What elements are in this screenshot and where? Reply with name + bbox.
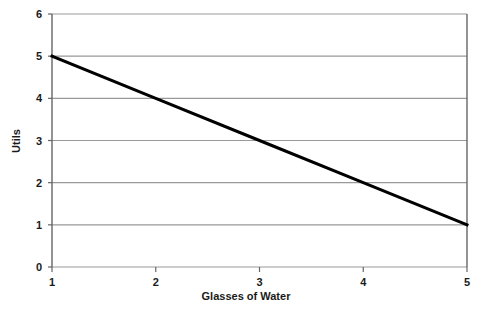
- y-tick-label-5: 5: [36, 50, 42, 62]
- x-axis-title: Glasses of Water: [202, 290, 292, 302]
- utility-line-chart: 0123456 12345 Glasses of Water Utils: [0, 0, 489, 319]
- x-tick-label-1: 1: [49, 276, 55, 288]
- y-axis-title: Utils: [10, 129, 22, 153]
- y-tick-label-1: 1: [36, 219, 42, 231]
- x-tick-label-4: 4: [360, 276, 367, 288]
- y-tick-label-6: 6: [36, 8, 42, 20]
- chart-canvas: 0123456 12345 Glasses of Water Utils: [0, 0, 489, 319]
- y-tick-label-4: 4: [36, 92, 43, 104]
- x-tick-label-2: 2: [153, 276, 159, 288]
- y-tick-label-2: 2: [36, 177, 42, 189]
- chart-background: [0, 0, 489, 319]
- x-tick-label-5: 5: [464, 276, 470, 288]
- y-tick-label-0: 0: [36, 261, 42, 273]
- y-tick-label-3: 3: [36, 135, 42, 147]
- x-tick-label-3: 3: [256, 276, 262, 288]
